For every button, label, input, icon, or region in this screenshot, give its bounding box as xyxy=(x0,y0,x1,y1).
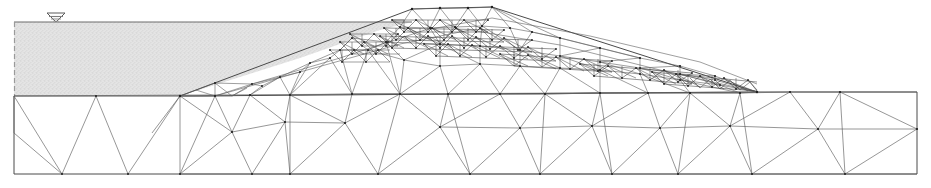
water-table-triangle-icon xyxy=(47,13,65,22)
fem-mesh-figure: Finite element mesh of an embankment dam… xyxy=(0,0,931,188)
mesh-canvas xyxy=(0,0,931,188)
domain-boundary xyxy=(14,92,917,174)
foundation-mesh xyxy=(14,92,917,174)
